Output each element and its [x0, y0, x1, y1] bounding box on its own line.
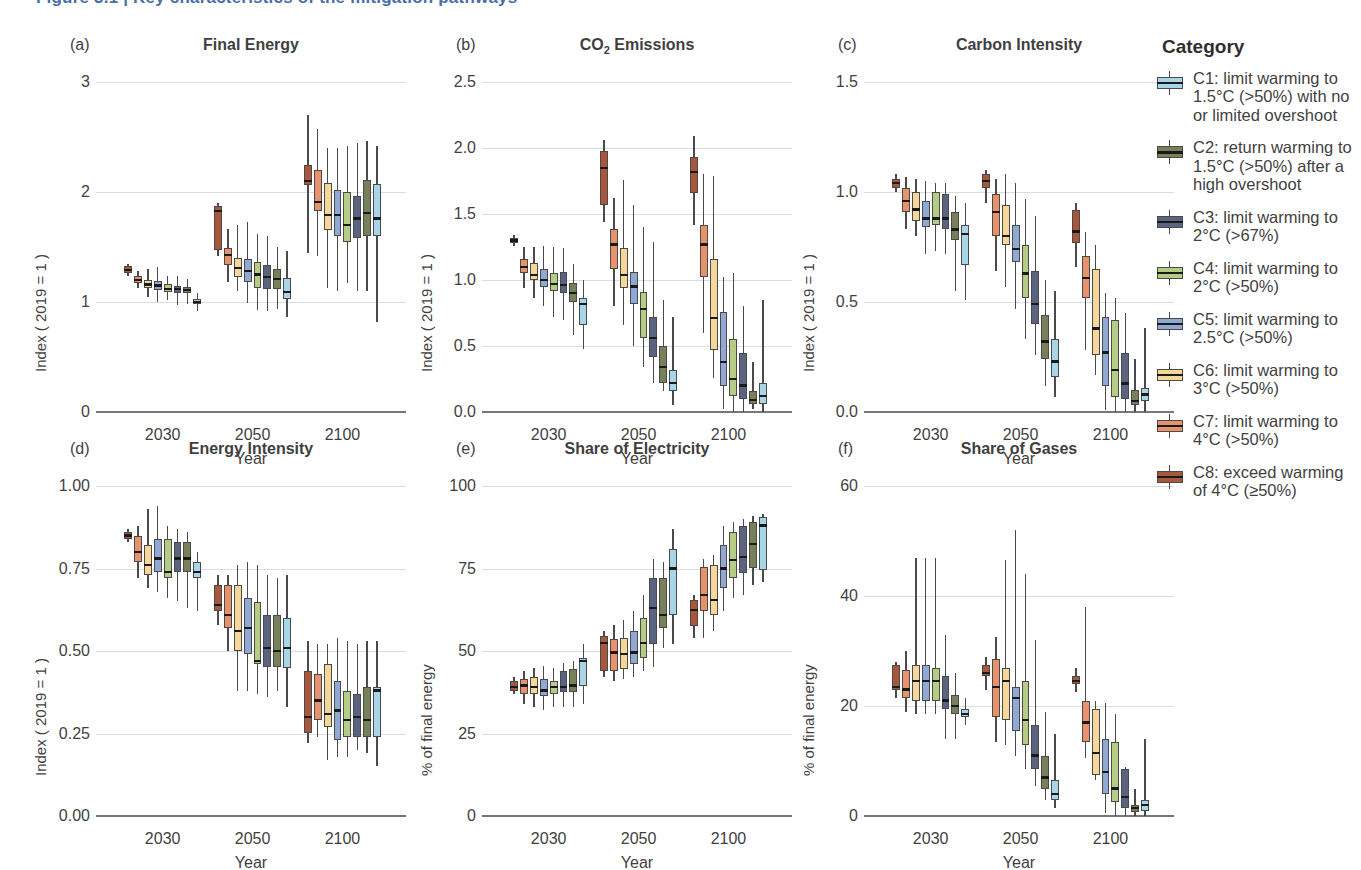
boxplot-C1-2100 — [864, 82, 1174, 412]
y-axis-label-c: Index ( 2019 = 1 ) — [800, 254, 817, 372]
panel-title-a: Final Energy — [96, 36, 406, 54]
y-tick-label: 0.25 — [44, 725, 90, 743]
x-tick-label: 2100 — [325, 830, 361, 848]
legend-label-c1: C1: limit warming to 1.5°C (>50%) with n… — [1193, 68, 1355, 124]
boxplot-C1-2100 — [96, 486, 406, 816]
legend-swatch-c2-icon — [1155, 137, 1185, 167]
plot-area-c: 0.00.51.01.5 — [864, 82, 1174, 412]
legend-median — [1157, 476, 1183, 478]
boxplot-C1-2100 — [482, 486, 792, 816]
boxplot-C1-2100 — [864, 486, 1174, 816]
y-tick-label: 40 — [812, 587, 858, 605]
legend-swatch-c5-icon — [1155, 309, 1185, 339]
legend-item-c6[interactable]: C6: limit warming to 3°C (>50%) — [1155, 360, 1355, 398]
y-tick-label: 1.5 — [430, 205, 476, 223]
x-tick-label: 2030 — [531, 830, 567, 848]
panel-letter-a: (a) — [70, 36, 90, 54]
legend-label-c7: C7: limit warming to 4°C (>50%) — [1193, 411, 1355, 449]
legend-median — [1157, 272, 1183, 274]
y-tick-label: 0.50 — [44, 642, 90, 660]
y-tick-label: 3 — [44, 73, 90, 91]
legend-item-c3[interactable]: C3: limit warming to 2°C (>67%) — [1155, 207, 1355, 245]
x-axis-label-d: Year — [235, 854, 267, 870]
x-tick-label: 2030 — [913, 830, 949, 848]
legend-swatch-c6-icon — [1155, 360, 1185, 390]
legend-swatch-c1-icon — [1155, 68, 1185, 98]
x-tick-label: 2050 — [235, 830, 271, 848]
legend-item-c4[interactable]: C4: limit warming to 2°C (>50%) — [1155, 258, 1355, 296]
y-tick-label: 0.75 — [44, 560, 90, 578]
legend-label-c4: C4: limit warming to 2°C (>50%) — [1193, 258, 1355, 296]
panel-title-b: CO2 Emissions — [482, 36, 792, 56]
boxplot-C1-2100 — [96, 82, 406, 412]
plot-area-a: 0123 — [96, 82, 406, 412]
y-tick-label: 2.5 — [430, 73, 476, 91]
y-axis-label-e: % of final energy — [418, 665, 435, 777]
figure-title: Figure 3.1 | Key characteristics of the … — [36, 0, 517, 8]
median-line — [373, 689, 381, 691]
legend-item-c5[interactable]: C5: limit warming to 2.5°C (>50%) — [1155, 309, 1355, 347]
median-line — [373, 217, 381, 219]
panel-title-d: Energy Intensity — [96, 440, 406, 458]
legend-swatch-c3-icon — [1155, 207, 1185, 237]
y-tick-label: 25 — [430, 725, 476, 743]
box — [373, 184, 381, 236]
y-tick-label: 1.5 — [812, 73, 858, 91]
y-axis-label-b: Index ( 2019 = 1 ) — [418, 254, 435, 372]
x-tick-label: 2050 — [621, 830, 657, 848]
y-axis-label-d: Index ( 2019 = 1 ) — [32, 658, 49, 776]
legend-label-c3: C3: limit warming to 2°C (>67%) — [1193, 207, 1355, 245]
legend-items: C1: limit warming to 1.5°C (>50%) with n… — [1155, 68, 1355, 499]
panel-letter-b: (b) — [456, 36, 476, 54]
legend-median — [1157, 221, 1183, 223]
panel-letter-f: (f) — [838, 440, 853, 458]
legend-median — [1157, 323, 1183, 325]
legend-item-c2[interactable]: C2: return warming to 1.5°C (>50%) after… — [1155, 137, 1355, 193]
legend-item-c7[interactable]: C7: limit warming to 4°C (>50%) — [1155, 411, 1355, 449]
legend-item-c1[interactable]: C1: limit warming to 1.5°C (>50%) with n… — [1155, 68, 1355, 124]
panel-f: (f)Share of Gases0204060203020502100Year… — [806, 440, 1194, 870]
legend-median — [1157, 374, 1183, 376]
panel-title-e: Share of Electricity — [482, 440, 792, 458]
y-tick-label: 0.00 — [44, 807, 90, 825]
y-tick-label: 0.5 — [430, 337, 476, 355]
y-tick-label: 0 — [44, 403, 90, 421]
y-tick-label: 20 — [812, 697, 858, 715]
panel-b: (b)CO2 Emissions0.00.51.01.52.02.5203020… — [420, 36, 812, 482]
panel-c: (c)Carbon Intensity0.00.51.01.5203020502… — [806, 36, 1194, 482]
x-axis-label-f: Year — [1003, 854, 1035, 870]
y-tick-label: 0 — [812, 807, 858, 825]
x-axis-label-e: Year — [621, 854, 653, 870]
y-tick-label: 60 — [812, 477, 858, 495]
y-axis-label-a: Index ( 2019 = 1 ) — [32, 254, 49, 372]
panel-d: (d)Energy Intensity0.000.250.500.751.002… — [36, 440, 426, 870]
boxplot-C1-2100 — [482, 82, 792, 412]
median-line — [1141, 804, 1149, 806]
y-tick-label: 1.0 — [812, 183, 858, 201]
x-tick-label: 2030 — [145, 830, 181, 848]
legend-label-c8: C8: exceed warming of 4°C (≥50%) — [1193, 462, 1355, 500]
legend-title: Category — [1162, 36, 1355, 58]
y-tick-label: 2.0 — [430, 139, 476, 157]
legend-label-c5: C5: limit warming to 2.5°C (>50%) — [1193, 309, 1355, 347]
x-tick-label: 2100 — [1093, 830, 1129, 848]
legend-median — [1157, 151, 1183, 153]
x-tick-label: 2100 — [711, 830, 747, 848]
median-line — [759, 524, 767, 526]
y-tick-label: 0 — [430, 807, 476, 825]
panel-letter-d: (d) — [70, 440, 90, 458]
plot-area-d: 0.000.250.500.751.00 — [96, 486, 406, 816]
box — [759, 383, 767, 404]
x-tick-label: 2050 — [1003, 830, 1039, 848]
y-tick-label: 0.5 — [812, 293, 858, 311]
y-tick-label: 0.0 — [812, 403, 858, 421]
panel-e: (e)Share of Electricity02550751002030205… — [420, 440, 812, 870]
panel-title-c: Carbon Intensity — [864, 36, 1174, 54]
y-tick-label: 1 — [44, 293, 90, 311]
y-axis-label-f: % of final energy — [800, 665, 817, 777]
y-tick-label: 50 — [430, 642, 476, 660]
plot-area-e: 0255075100 — [482, 486, 792, 816]
y-tick-label: 1.0 — [430, 271, 476, 289]
panel-letter-e: (e) — [456, 440, 476, 458]
legend-item-c8[interactable]: C8: exceed warming of 4°C (≥50%) — [1155, 462, 1355, 500]
